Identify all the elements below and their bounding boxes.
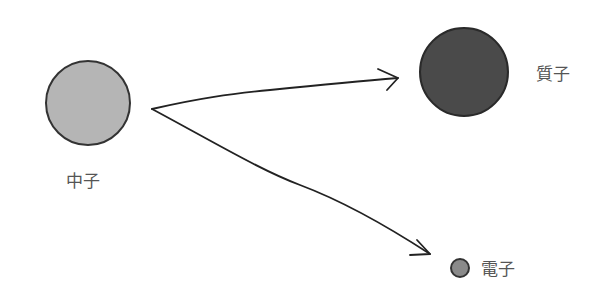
proton-circle (420, 28, 508, 116)
arrow-to-proton (152, 69, 398, 109)
electron-label: 電子 (481, 261, 515, 278)
neutron-circle (46, 61, 130, 145)
proton-label: 質子 (536, 66, 570, 83)
decay-diagram (0, 0, 609, 305)
electron-circle (451, 259, 469, 277)
neutron-label: 中子 (66, 173, 100, 190)
arrow-to-electron (152, 109, 430, 255)
